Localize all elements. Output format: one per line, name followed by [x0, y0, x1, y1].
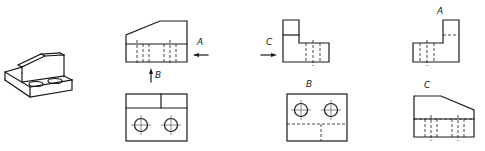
front-view	[126, 21, 187, 64]
label-a: A	[196, 37, 203, 47]
arrow-c: C	[261, 37, 277, 57]
view-a: A	[413, 6, 459, 66]
isometric-view	[5, 53, 72, 97]
technical-drawing: A B C B	[0, 0, 485, 151]
arrow-a: A	[193, 37, 208, 57]
top-view	[126, 94, 187, 141]
label-view-c: C	[424, 80, 431, 90]
view-c: C	[414, 80, 474, 141]
label-view-b: B	[306, 79, 312, 89]
arrow-b: B	[149, 68, 161, 82]
view-b: B	[287, 79, 347, 141]
label-view-a: A	[436, 6, 443, 16]
label-c: C	[266, 37, 273, 47]
label-b: B	[155, 70, 161, 80]
side-view	[283, 20, 329, 66]
